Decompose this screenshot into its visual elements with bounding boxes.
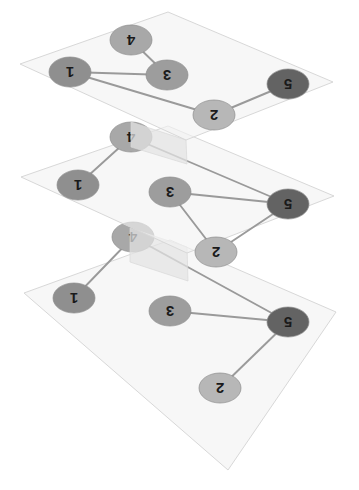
node-circle[interactable] xyxy=(267,189,309,219)
node-circle[interactable] xyxy=(195,237,237,267)
graph-node-1[interactable]: 1 xyxy=(53,283,95,313)
node-circle[interactable] xyxy=(146,60,188,90)
graph-node-5[interactable]: 5 xyxy=(267,69,309,99)
node-circle[interactable] xyxy=(149,296,191,326)
node-circle[interactable] xyxy=(267,69,309,99)
graph-node-5[interactable]: 5 xyxy=(267,307,309,337)
network-layer-layer-top: 41325 xyxy=(20,12,333,140)
graph-node-3[interactable]: 3 xyxy=(146,60,188,90)
node-circle[interactable] xyxy=(267,307,309,337)
graph-node-1[interactable]: 1 xyxy=(49,57,91,87)
node-circle[interactable] xyxy=(49,57,91,87)
graph-node-5[interactable]: 5 xyxy=(267,189,309,219)
node-circle[interactable] xyxy=(110,25,152,55)
node-circle[interactable] xyxy=(193,100,235,130)
multiplex-network-figure: 413524132541325 xyxy=(0,0,359,490)
graph-node-2[interactable]: 2 xyxy=(199,373,241,403)
graph-node-2[interactable]: 2 xyxy=(195,237,237,267)
graph-node-4[interactable]: 4 xyxy=(110,25,152,55)
graph-node-1[interactable]: 1 xyxy=(57,170,99,200)
graph-node-3[interactable]: 3 xyxy=(149,296,191,326)
node-circle[interactable] xyxy=(199,373,241,403)
node-circle[interactable] xyxy=(149,177,191,207)
node-circle[interactable] xyxy=(57,170,99,200)
graph-node-3[interactable]: 3 xyxy=(149,177,191,207)
graph-node-2[interactable]: 2 xyxy=(193,100,235,130)
figure-canvas: 413524132541325 xyxy=(0,0,359,490)
node-circle[interactable] xyxy=(53,283,95,313)
